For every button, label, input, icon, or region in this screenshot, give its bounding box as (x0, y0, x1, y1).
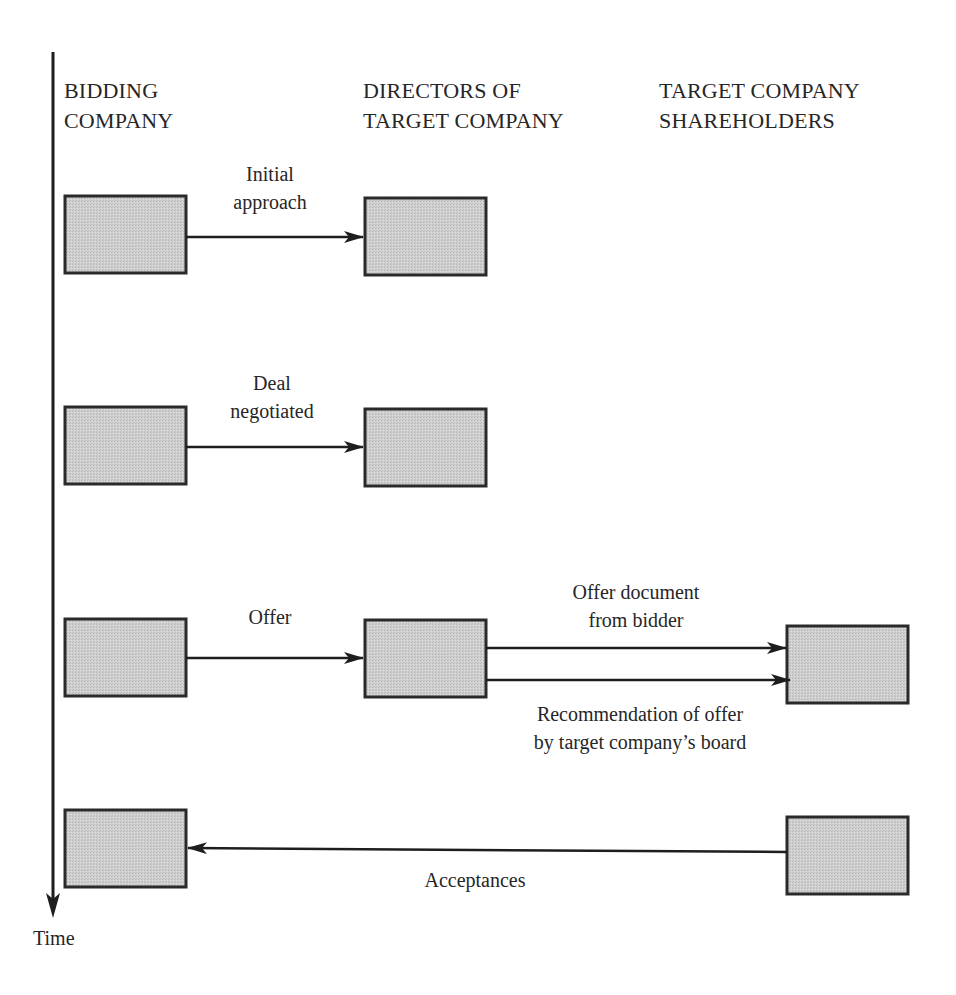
bidder-box-2 (65, 407, 186, 484)
column-header-line: COMPANY (64, 106, 173, 136)
label-line: Recommendation of offer (534, 700, 746, 728)
bidder-box-1 (65, 196, 186, 273)
label-line: approach (233, 188, 306, 216)
column-header-line: TARGET COMPANY (659, 76, 860, 106)
column-header-line: BIDDING (64, 76, 173, 106)
label-line: Offer (249, 603, 292, 631)
time-axis-label: Time (33, 927, 75, 950)
directors-box-3 (365, 620, 486, 697)
column-header-directors: DIRECTORS OF TARGET COMPANY (363, 76, 564, 136)
label-line: Deal (230, 369, 313, 397)
arrow-acceptances (188, 848, 787, 852)
label-line: Acceptances (424, 866, 525, 894)
label-recommendation: Recommendation of offer by target compan… (534, 700, 746, 756)
shareholders-box-4 (787, 817, 908, 894)
label-acceptances: Acceptances (424, 866, 525, 894)
label-offer-document: Offer document from bidder (573, 578, 700, 634)
label-offer: Offer (249, 603, 292, 631)
column-header-shareholders: TARGET COMPANY SHAREHOLDERS (659, 76, 860, 136)
label-line: by target company’s board (534, 728, 746, 756)
column-header-line: DIRECTORS OF (363, 76, 564, 106)
label-line: Initial (233, 160, 306, 188)
column-header-line: TARGET COMPANY (363, 106, 564, 136)
label-line: from bidder (573, 606, 700, 634)
step-offer (65, 619, 908, 703)
column-header-bidding-company: BIDDING COMPANY (64, 76, 173, 136)
bidder-box-4 (65, 810, 186, 887)
directors-box-2 (365, 409, 486, 486)
label-line: negotiated (230, 397, 313, 425)
takeover-flow-diagram (0, 0, 956, 995)
bidder-box-3 (65, 619, 186, 696)
label-initial-approach: Initial approach (233, 160, 306, 216)
label-line: Offer document (573, 578, 700, 606)
time-axis (46, 52, 60, 918)
shareholders-box-3 (787, 626, 908, 703)
directors-box-1 (365, 198, 486, 275)
column-header-line: SHAREHOLDERS (659, 106, 860, 136)
label-deal-negotiated: Deal negotiated (230, 369, 313, 425)
